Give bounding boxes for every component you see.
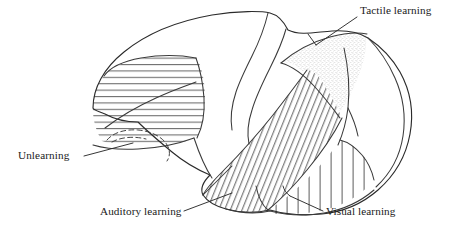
central-sulcus	[231, 13, 268, 130]
label-unlearning: Unlearning	[18, 149, 70, 161]
brain-diagram-svg: Tactile learning Unlearning Auditory lea…	[0, 0, 467, 237]
label-tactile-learning: Tactile learning	[360, 4, 432, 16]
brain-diagram-figure: Tactile learning Unlearning Auditory lea…	[0, 0, 467, 237]
label-auditory-learning: Auditory learning	[100, 205, 182, 217]
label-visual-learning: Visual learning	[326, 205, 396, 217]
posterior-sulcus-short	[348, 108, 358, 136]
